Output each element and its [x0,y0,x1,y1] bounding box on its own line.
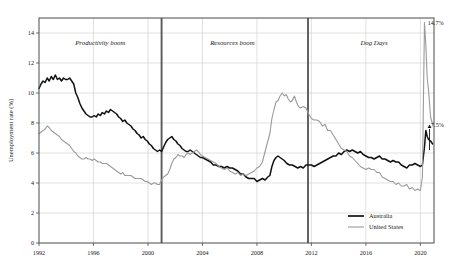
era-label-dog-days: Dog Days [359,39,388,46]
ytick-label-4: 4 [31,179,34,186]
ytick-label-8: 8 [31,119,34,126]
ytick-label-12: 12 [28,59,34,66]
legend-label-australia: Australia [369,212,393,219]
ytick-label-10: 10 [28,89,34,96]
xtick-label-1992: 1992 [33,249,45,256]
annotation-us-peak: 14.7% [428,19,444,26]
ytick-label-6: 6 [31,149,34,156]
xtick-label-2020: 2020 [414,249,426,256]
era-label-productivity-boom: Productivity boom [74,39,125,46]
xtick-label-2004: 2004 [196,249,208,256]
xtick-label-2008: 2008 [251,249,263,256]
legend-label-united-states: United States [369,223,404,230]
xtick-label-1996: 1996 [87,249,99,256]
ytick-label-14: 14 [28,29,34,36]
plot-background [39,18,434,243]
annotation-au-peak: 7.5% [431,121,444,128]
y-axis-title: Unemployment rate (%) [7,99,15,162]
chart-canvas: 0246810121419921996200020042008201220162… [0,0,451,279]
unemployment-rate-chart: 0246810121419921996200020042008201220162… [0,0,451,279]
xtick-label-2012: 2012 [305,249,317,256]
era-label-resources-boom: Resources boom [209,39,255,46]
xtick-label-2000: 2000 [142,249,154,256]
ytick-label-2: 2 [31,209,34,216]
ytick-label-0: 0 [31,239,34,246]
xtick-label-2016: 2016 [360,249,372,256]
